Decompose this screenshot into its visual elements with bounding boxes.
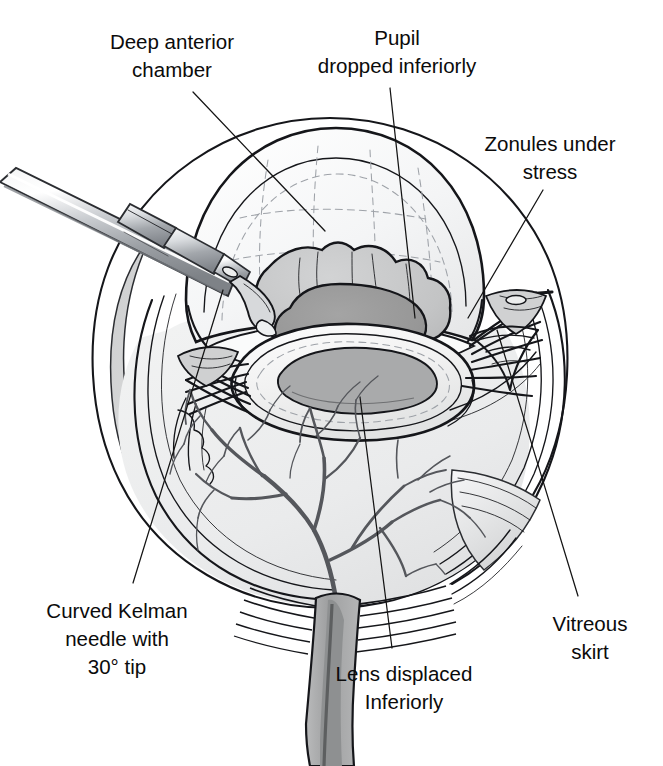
needle-shaft-highlight: [8, 174, 230, 282]
label-pupil-dropped-inferiorly: Pupil dropped inferiorly: [318, 26, 477, 77]
label-line: stress: [523, 160, 578, 183]
illustration-canvas: Deep anterior chamber Pupil dropped infe…: [0, 0, 663, 766]
label-line: chamber: [132, 58, 212, 81]
label-line: Zonules under: [484, 132, 615, 155]
label-line: skirt: [571, 640, 609, 663]
label-line: Curved Kelman: [46, 599, 187, 622]
label-line: Vitreous: [553, 612, 628, 635]
label-line: needle with: [65, 627, 169, 650]
label-line: Inferiorly: [365, 690, 444, 713]
label-curved-kelman-needle: Curved Kelman needle with 30° tip: [46, 599, 187, 678]
label-zonules-under-stress: Zonules under stress: [484, 132, 615, 183]
label-vitreous-skirt: Vitreous skirt: [553, 612, 628, 663]
label-deep-anterior-chamber: Deep anterior chamber: [110, 30, 234, 81]
label-line: Lens displaced: [336, 662, 473, 685]
eye-globe: [93, 118, 568, 766]
label-line: 30° tip: [88, 655, 146, 678]
eye-cross-section-figure: Deep anterior chamber Pupil dropped infe…: [0, 0, 663, 766]
label-line: dropped inferiorly: [318, 54, 477, 77]
label-line: Pupil: [374, 26, 420, 49]
label-lens-displaced-inferiorly: Lens displaced Inferiorly: [336, 662, 473, 713]
label-line: Deep anterior: [110, 30, 234, 53]
crystalline-lens: [232, 324, 474, 441]
